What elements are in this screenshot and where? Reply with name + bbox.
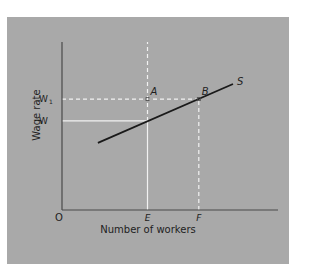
wage-supply-chart: S AB Number of workers Wage rate O EFWW1 — [0, 0, 318, 276]
y-tick-subscript-1: 1 — [49, 98, 53, 105]
point-b-label: B — [202, 86, 209, 97]
x-tick-label-f: F — [196, 213, 202, 223]
point-a-label: A — [150, 86, 158, 97]
supply-curve-line — [98, 84, 233, 143]
supply-curve-label: S — [237, 76, 244, 87]
origin-label: O — [55, 212, 63, 223]
guide-lines — [62, 42, 199, 210]
y-tick-label-w: W — [39, 116, 48, 126]
series-group: S — [98, 76, 244, 143]
chart-labels: Number of workers Wage rate O EFWW1 — [31, 89, 202, 235]
x-tick-label-e: E — [145, 213, 151, 223]
y-tick-label-w1: W — [39, 94, 48, 104]
x-axis-label: Number of workers — [100, 224, 195, 235]
